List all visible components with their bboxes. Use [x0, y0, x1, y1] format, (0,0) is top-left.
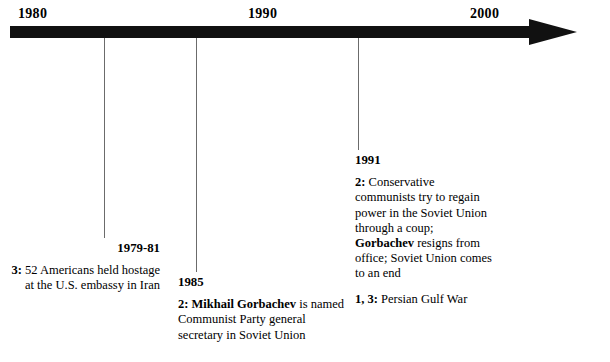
year-label-2000: 2000 [470, 6, 499, 22]
event-block-1985: 1985 2: Mikhail Gorbachev is named Commu… [178, 275, 348, 343]
event-text-before: 52 Americans held hostage at the U.S. em… [22, 263, 160, 292]
leader-line-1979 [104, 38, 105, 238]
event-key: 1, 3: [355, 292, 378, 306]
event-key: 2: [355, 175, 365, 189]
event-text-emphasis: Mikhail Gorbachev [192, 297, 297, 311]
event-year-label: 1991 [355, 153, 493, 168]
year-label-1980: 1980 [18, 6, 47, 22]
year-label-1990: 1990 [248, 6, 277, 22]
event-year-label: 1979-81 [8, 241, 160, 256]
event-block-1991: 1991 2: Conservative communists try to r… [355, 153, 493, 307]
leader-line-1991 [358, 38, 359, 150]
event-entry: 2: Mikhail Gorbachev is named Communist … [178, 297, 348, 343]
event-text-emphasis: Gorbachev [355, 236, 414, 250]
event-key: 2: [178, 297, 188, 311]
event-text-before: Persian Gulf War [378, 292, 467, 306]
timeline-bar [10, 26, 535, 38]
event-entry: 2: Conservative communists try to regain… [355, 175, 493, 281]
event-text-before: Conservative communists try to regain po… [355, 175, 487, 235]
event-key: 3: [11, 263, 21, 277]
event-entry: 1, 3: Persian Gulf War [355, 292, 493, 307]
event-block-1979-81: 1979-81 3: 52 Americans held hostage at … [8, 241, 160, 294]
event-year-label: 1985 [178, 275, 348, 290]
right-arrow-icon [529, 19, 577, 45]
leader-line-1985 [196, 38, 197, 272]
timeline-axis: 1980 1990 2000 [0, 0, 610, 60]
event-entry: 3: 52 Americans held hostage at the U.S.… [8, 263, 160, 293]
